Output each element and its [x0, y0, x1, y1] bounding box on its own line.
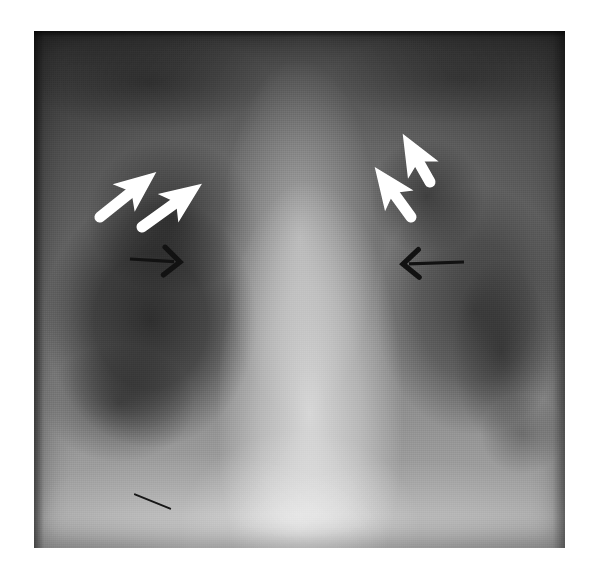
white-arrow-group [100, 152, 430, 227]
black-arrow-group [130, 247, 464, 277]
annotation-overlay [34, 31, 565, 548]
radiograph-figure [0, 0, 598, 568]
white-arrow-left-outer [100, 185, 140, 217]
black-arrow-right [403, 250, 464, 278]
black-arrow-left [130, 247, 180, 275]
white-arrow-left-inner [142, 196, 185, 227]
radiograph-image [34, 31, 565, 548]
white-arrow-right-inner [387, 184, 411, 217]
white-arrow-right-outer [413, 152, 430, 182]
